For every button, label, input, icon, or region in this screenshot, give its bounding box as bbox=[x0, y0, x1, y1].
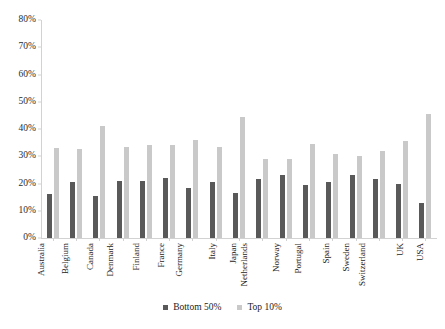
x-tick-label: Sweden bbox=[341, 243, 350, 272]
bar bbox=[419, 203, 424, 238]
bar bbox=[333, 154, 338, 238]
bar bbox=[186, 188, 191, 238]
bar-group bbox=[321, 20, 344, 238]
x-tick-label: UK bbox=[396, 243, 405, 256]
bar bbox=[77, 149, 82, 238]
bar bbox=[287, 159, 292, 238]
bar-group bbox=[157, 20, 180, 238]
bar bbox=[426, 114, 431, 238]
bar-group bbox=[414, 20, 437, 238]
legend-label: Top 10% bbox=[247, 303, 281, 313]
legend-swatch-icon bbox=[237, 305, 242, 310]
bar bbox=[54, 148, 59, 238]
x-tick-label: Switzerland bbox=[357, 243, 366, 286]
bar bbox=[240, 117, 245, 238]
bar bbox=[403, 141, 408, 238]
bar bbox=[47, 194, 52, 238]
x-tick-label: Spain bbox=[322, 243, 331, 264]
bar bbox=[357, 156, 362, 238]
bar bbox=[70, 182, 75, 238]
bar bbox=[117, 181, 122, 238]
x-axis-labels: AustraliaBelgiumCanadaDenmarkFinlandFran… bbox=[41, 241, 437, 296]
bar-group bbox=[251, 20, 274, 238]
x-tick-label: Finland bbox=[132, 243, 141, 271]
bar bbox=[380, 151, 385, 238]
bar bbox=[233, 193, 238, 238]
x-tick-label: Germany bbox=[176, 243, 185, 277]
x-tick-label: Norway bbox=[271, 243, 280, 272]
bar bbox=[170, 145, 175, 238]
bar bbox=[124, 147, 129, 238]
x-tick-label: Italy bbox=[207, 243, 216, 260]
x-label-cell: Italy bbox=[204, 241, 227, 296]
bar-group bbox=[274, 20, 297, 238]
bar-group bbox=[64, 20, 87, 238]
bar bbox=[210, 182, 215, 238]
y-tick-label: 20% bbox=[19, 179, 36, 189]
legend-label: Bottom 50% bbox=[173, 303, 221, 313]
bar-group bbox=[390, 20, 413, 238]
bar bbox=[100, 126, 105, 238]
y-tick-label: 70% bbox=[19, 43, 36, 53]
x-label-cell: Finland bbox=[134, 241, 157, 296]
bar-group bbox=[134, 20, 157, 238]
bar-chart: 0%10%20%30%40%50%60%70%80% AustraliaBelg… bbox=[0, 0, 445, 329]
bar bbox=[163, 178, 168, 238]
x-tick-label: Belgium bbox=[60, 243, 69, 274]
bar-series-container bbox=[41, 20, 437, 238]
x-tick-label: USA bbox=[416, 243, 425, 261]
bar-group bbox=[367, 20, 390, 238]
plot-area: 0%10%20%30%40%50%60%70%80% bbox=[41, 20, 437, 238]
x-tick-label: Canada bbox=[86, 243, 95, 270]
bar-group bbox=[297, 20, 320, 238]
x-tick-label: Portugal bbox=[294, 243, 303, 274]
y-tick-label: 80% bbox=[19, 15, 36, 25]
x-tick-label: Netherlands bbox=[241, 243, 250, 286]
x-label-cell: Portugal bbox=[297, 241, 320, 296]
legend-item[interactable]: Bottom 50% bbox=[163, 303, 221, 313]
x-tick-label: France bbox=[157, 243, 166, 268]
bar bbox=[263, 159, 268, 238]
x-label-cell: Switzerland bbox=[367, 241, 390, 296]
x-label-cell: UK bbox=[390, 241, 413, 296]
bar bbox=[350, 175, 355, 238]
bar bbox=[217, 147, 222, 238]
bar bbox=[140, 181, 145, 238]
bar bbox=[326, 182, 331, 238]
y-tick-label: 60% bbox=[19, 70, 36, 80]
bar bbox=[280, 175, 285, 238]
bar bbox=[93, 196, 98, 238]
x-tick-label: Japan bbox=[229, 243, 238, 264]
x-tick-label: Australia bbox=[36, 243, 45, 276]
bar-group bbox=[181, 20, 204, 238]
y-tick-label: 40% bbox=[19, 124, 36, 134]
bar-group bbox=[41, 20, 64, 238]
bar-group bbox=[344, 20, 367, 238]
bar-group bbox=[88, 20, 111, 238]
x-tick-label: Denmark bbox=[106, 243, 115, 277]
legend-swatch-icon bbox=[163, 305, 168, 310]
bar bbox=[373, 179, 378, 238]
x-label-cell: Germany bbox=[181, 241, 204, 296]
chart-legend: Bottom 50%Top 10% bbox=[0, 303, 445, 313]
bar bbox=[303, 185, 308, 238]
y-tick-label: 50% bbox=[19, 97, 36, 107]
bar-group bbox=[227, 20, 250, 238]
y-tick-label: 30% bbox=[19, 152, 36, 162]
x-label-cell: USA bbox=[414, 241, 437, 296]
bar bbox=[256, 179, 261, 238]
bar bbox=[193, 140, 198, 238]
legend-item[interactable]: Top 10% bbox=[237, 303, 281, 313]
bar bbox=[396, 184, 401, 239]
bar-group bbox=[111, 20, 134, 238]
bar-group bbox=[204, 20, 227, 238]
bar bbox=[310, 144, 315, 238]
y-tick-label: 0% bbox=[23, 233, 36, 243]
y-tick-label: 10% bbox=[19, 206, 36, 216]
bar bbox=[147, 145, 152, 238]
